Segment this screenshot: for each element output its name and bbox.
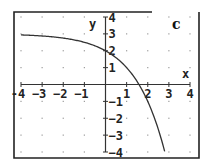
- y-tick-label: 3: [109, 27, 116, 41]
- x-tick-label: 3: [165, 87, 172, 101]
- x-tick-label: -4: [11, 87, 25, 101]
- x-tick-label: −1: [74, 87, 88, 101]
- y-tick-label: −3: [109, 129, 123, 143]
- y-tick-label: 4: [109, 11, 116, 25]
- panel-label: c: [172, 16, 181, 32]
- y-tick-label: −1: [109, 95, 123, 109]
- y-axis-label: y: [89, 17, 96, 31]
- x-axis-label: x: [182, 67, 189, 81]
- x-tick-label: −3: [32, 87, 46, 101]
- x-tick-label: −2: [53, 87, 67, 101]
- x-tick-label: 1: [123, 87, 130, 101]
- x-tick-label: 2: [144, 87, 151, 101]
- x-tick-label: 4: [186, 87, 193, 101]
- y-tick-label: 1: [109, 61, 116, 75]
- axes: [21, 17, 190, 152]
- chart: -4−3−2−11234−4−3−2−11234 x y c: [0, 0, 209, 167]
- y-tick-label: −4: [109, 146, 123, 160]
- y-tick-label: −2: [109, 112, 123, 126]
